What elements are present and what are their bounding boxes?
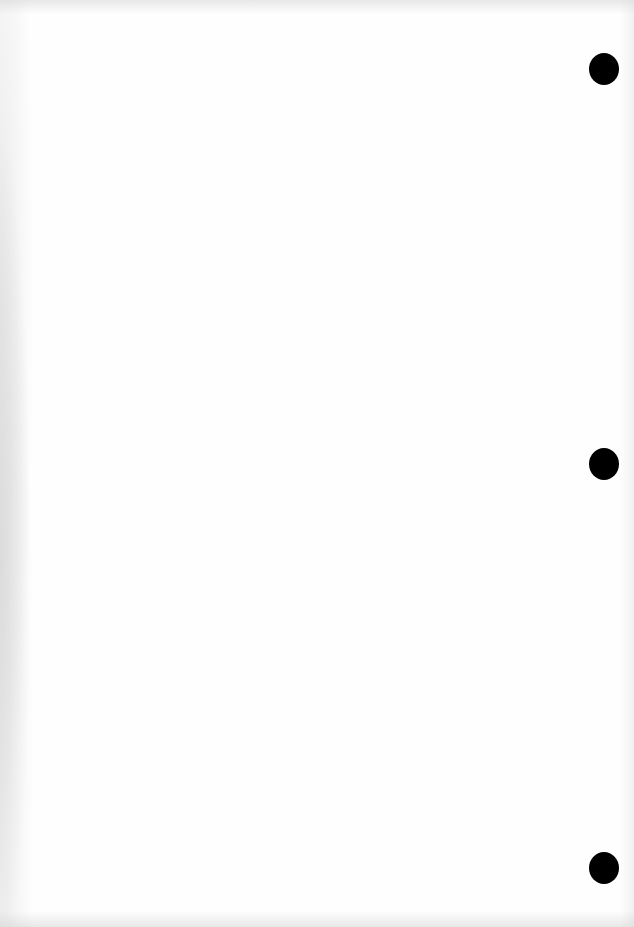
punch-hole-top: [589, 53, 619, 85]
scan-noise-right: [620, 0, 634, 927]
punch-hole-middle: [589, 448, 619, 480]
scan-noise-left: [0, 0, 40, 927]
scan-noise-top: [0, 0, 634, 14]
punch-hole-bottom: [589, 852, 619, 884]
scanned-page: [0, 0, 634, 927]
scan-noise-bottom: [0, 911, 634, 927]
